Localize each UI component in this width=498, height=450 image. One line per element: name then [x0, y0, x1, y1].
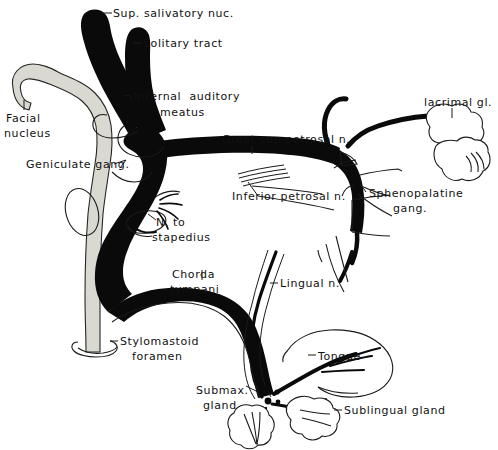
- leader-stapedius: [148, 214, 156, 220]
- label-chorda-tympani-line2: tympani: [170, 283, 220, 296]
- black-nerve-tracts: [81, 10, 428, 436]
- label-lingual-nerve: Lingual n.: [280, 277, 340, 290]
- label-sup-salivatory-nucleus: Sup. salivatory nuc.: [113, 7, 234, 20]
- label-nerve-to-stapedius-line1: N. to: [156, 216, 185, 229]
- label-geniculate-ganglion: Geniculate gang.: [26, 158, 130, 171]
- label-solitary-tract: Solitary tract: [143, 37, 223, 50]
- lacrimal-gland-outline: [426, 104, 490, 181]
- sublingual-gland-outline: [286, 396, 339, 440]
- label-sphenopalatine-ganglion-line2: gang.: [393, 202, 427, 215]
- label-sublingual-gland: Sublingual gland: [344, 404, 446, 417]
- submaxillary-ganglion-node: [265, 385, 271, 391]
- label-lacrimal-gland: lacrimal gl.: [424, 96, 492, 109]
- ganglion-node-3: [265, 398, 272, 405]
- facial-nerve-figure: Sup. salivatory nuc. Solitary tract Inte…: [0, 0, 498, 450]
- label-facial-nucleus-line1: Facial: [6, 112, 41, 125]
- label-stylomastoid-foramen-line1: Stylomastoid: [120, 335, 199, 348]
- label-inferior-petrosal-nerve: Inferior petrosal n.: [232, 190, 346, 203]
- ganglion-node-2: [274, 389, 279, 394]
- label-internal-auditory-meatus-line1: Internal auditory: [134, 90, 240, 103]
- label-nerve-to-stapedius-line2: stapedius: [152, 231, 211, 244]
- label-submax-gland-line1: Submax.: [196, 384, 249, 397]
- ganglion-node-4: [276, 400, 281, 405]
- label-sphenopalatine-ganglion-line1: Sphenopalatine: [369, 187, 463, 200]
- label-tongue: Tongue: [317, 350, 361, 363]
- label-stylomastoid-foramen-line2: foramen: [132, 350, 183, 363]
- label-internal-auditory-meatus-line2: meatus: [160, 106, 205, 119]
- label-chorda-tympani-line1: Chorda: [172, 268, 215, 281]
- label-submax-gland-line2: gland: [203, 399, 237, 412]
- label-great-sup-petrosal-nerve: Great sup.petrosal n.: [222, 133, 350, 146]
- label-facial-nucleus-line2: nucleus: [4, 127, 51, 140]
- facial-nerve-diagram: Sup. salivatory nuc. Solitary tract Inte…: [0, 0, 498, 450]
